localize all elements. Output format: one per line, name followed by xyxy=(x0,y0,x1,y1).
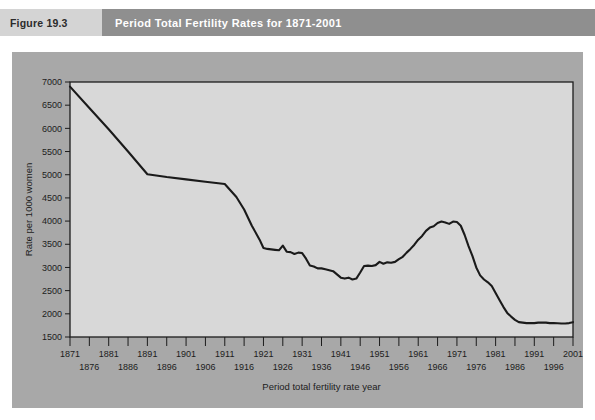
y-axis: 1500200025003000350040004500500055006000… xyxy=(42,77,70,342)
figure-header-band: Figure 19.3 Period Total Fertility Rates… xyxy=(0,9,595,36)
x-tick-label-upper: 1981 xyxy=(486,349,506,359)
x-tick-label-upper: 1891 xyxy=(137,349,157,359)
x-tick-label-upper: 1871 xyxy=(60,349,80,359)
figure-number-cell: Figure 19.3 xyxy=(0,9,102,36)
y-tick-label: 2500 xyxy=(42,286,62,296)
plot-background xyxy=(70,82,573,337)
x-tick-label-upper: 1991 xyxy=(524,349,544,359)
y-tick-label: 6500 xyxy=(42,100,62,110)
x-tick-label-upper: 1911 xyxy=(215,349,234,359)
x-tick-label-lower: 1926 xyxy=(273,362,293,372)
x-tick-label-lower: 1966 xyxy=(428,362,448,372)
y-tick-label: 5500 xyxy=(42,147,62,157)
x-tick-label-upper: 1941 xyxy=(331,349,351,359)
y-tick-label: 4000 xyxy=(42,216,62,226)
x-axis: 1871188118911901191119211931194119511961… xyxy=(60,337,583,372)
x-tick-label-lower: 1896 xyxy=(157,362,177,372)
x-tick-label-lower: 1986 xyxy=(505,362,525,372)
x-tick-label-lower: 1996 xyxy=(544,362,564,372)
y-tick-label: 5000 xyxy=(42,170,62,180)
x-tick-label-lower: 1936 xyxy=(311,362,331,372)
y-tick-label: 6000 xyxy=(42,124,62,134)
x-tick-label-lower: 1916 xyxy=(234,362,254,372)
y-tick-label: 1500 xyxy=(42,332,62,342)
x-tick-label-upper: 1881 xyxy=(99,349,119,359)
x-tick-label-upper: 1921 xyxy=(253,349,273,359)
figure-title-label: Period Total Fertility Rates for 1871-20… xyxy=(115,17,342,29)
x-tick-label-lower: 1976 xyxy=(466,362,486,372)
fertility-rate-line-chart: 1500200025003000350040004500500055006000… xyxy=(12,52,583,408)
figure-panel: 1500200025003000350040004500500055006000… xyxy=(12,52,583,408)
y-tick-label: 4500 xyxy=(42,193,62,203)
y-tick-label: 3000 xyxy=(42,263,62,273)
x-tick-label-lower: 1886 xyxy=(118,362,138,372)
x-tick-label-upper: 1961 xyxy=(408,349,428,359)
x-axis-title: Period total fertility rate year xyxy=(262,381,380,392)
x-tick-label-upper: 2001 xyxy=(563,349,583,359)
figure-number-label: Figure 19.3 xyxy=(10,17,68,29)
x-tick-label-upper: 1971 xyxy=(447,349,467,359)
x-tick-label-upper: 1931 xyxy=(292,349,312,359)
y-tick-label: 7000 xyxy=(42,77,62,87)
x-tick-label-lower: 1946 xyxy=(350,362,370,372)
y-axis-title: Rate per 1000 women xyxy=(23,163,34,256)
y-tick-label: 2000 xyxy=(42,309,62,319)
x-tick-label-lower: 1906 xyxy=(195,362,215,372)
figure-title-cell: Period Total Fertility Rates for 1871-20… xyxy=(102,9,595,36)
x-tick-label-upper: 1901 xyxy=(176,349,196,359)
x-tick-label-lower: 1956 xyxy=(389,362,409,372)
y-tick-label: 3500 xyxy=(42,239,62,249)
x-tick-label-upper: 1951 xyxy=(370,349,390,359)
x-tick-label-lower: 1876 xyxy=(79,362,99,372)
